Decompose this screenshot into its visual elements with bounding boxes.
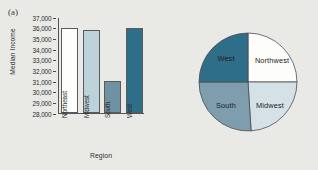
bar-chart-y-tick: 33,000 [22, 57, 56, 65]
pie-slice-label: South [216, 101, 236, 110]
bar-chart-panel: (a) Median Income 37,00036,00035,00034,0… [0, 0, 155, 170]
bar-chart-y-tick: 31,000 [22, 78, 56, 86]
bar-chart-y-tick-label: 29,000 [33, 100, 52, 107]
bar-chart-y-tick-mark [53, 39, 56, 40]
bar-chart-y-tick: 35,000 [22, 35, 56, 43]
bar-chart-y-tick-mark [53, 50, 56, 51]
bar-chart-y-tick-mark [53, 28, 56, 29]
pie-slice-label: Northwest [255, 56, 289, 65]
bar-chart-y-axis-ticks: 37,00036,00035,00034,00033,00032,00031,0… [22, 14, 56, 118]
bar-chart-y-tick-label: 30,000 [33, 89, 52, 96]
bar-chart-bar-slot: Midwest [83, 18, 100, 113]
bar-chart-y-tick: 30,000 [22, 89, 56, 97]
bar-chart-y-tick-mark [53, 18, 56, 19]
figure-container: (a) Median Income 37,00036,00035,00034,0… [0, 0, 318, 170]
bar-chart-y-tick: 36,000 [22, 25, 56, 33]
bar-chart-y-tick-mark [53, 114, 56, 115]
bar-chart-bar-slot: Northeast [61, 18, 78, 113]
bar-chart-x-tick-label: Midwest [83, 101, 90, 118]
bar-chart-y-tick-label: 36,000 [33, 25, 52, 32]
bar-chart-x-tick-label: South [104, 101, 111, 118]
bar-chart-y-tick: 32,000 [22, 67, 56, 75]
pie-slice-group [199, 33, 297, 131]
bar-chart-plot-area: NortheastMidwestSouthWest [58, 18, 144, 114]
bar-chart-y-tick: 29,000 [22, 99, 56, 107]
panel-a-label: (a) [8, 7, 18, 17]
bar-chart-y-tick: 34,000 [22, 46, 56, 54]
bar-chart-x-axis-title: Region [58, 152, 144, 159]
bar-chart-y-tick: 28,000 [22, 110, 56, 118]
bar-chart-y-tick-label: 37,000 [33, 15, 52, 22]
bar-chart-y-tick-mark [53, 103, 56, 104]
pie-chart-panel: (b) NorthwestMidwestSouthWest [155, 0, 318, 170]
bar-chart-y-tick-mark [53, 71, 56, 72]
bar-chart-bar-slot: West [126, 18, 143, 113]
bar-chart-y-tick-label: 34,000 [33, 47, 52, 54]
bar-chart-y-tick-label: 28,000 [33, 111, 52, 118]
pie-slice-label: Midwest [256, 101, 284, 110]
bar-chart-y-tick-label: 31,000 [33, 79, 52, 86]
bar-chart-x-tick-label: West [126, 101, 133, 118]
bar-chart-y-tick-mark [53, 92, 56, 93]
bar-chart-y-axis-title: Median Income [9, 22, 16, 82]
bar-chart-bar-slot: South [104, 18, 121, 113]
bar-chart-y-tick-mark [53, 60, 56, 61]
pie-slice-label: West [217, 54, 234, 63]
bar-chart-x-tick-label: Northeast [61, 101, 68, 118]
bar-chart-y-tick: 37,000 [22, 14, 56, 22]
pie-chart-graphic: NorthwestMidwestSouthWest [188, 11, 308, 151]
bar-chart-y-tick-label: 32,000 [33, 68, 52, 75]
bar-chart-y-tick-label: 33,000 [33, 57, 52, 64]
bar-chart-y-tick-mark [53, 82, 56, 83]
bar-chart-y-tick-label: 35,000 [33, 36, 52, 43]
